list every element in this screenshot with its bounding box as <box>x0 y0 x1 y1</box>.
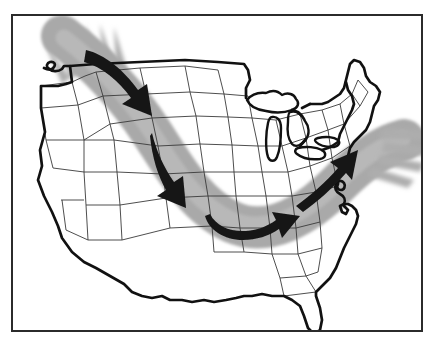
flow-map <box>0 0 441 346</box>
figure-container: Jet stream flow pattern over the contigu… <box>0 0 441 346</box>
